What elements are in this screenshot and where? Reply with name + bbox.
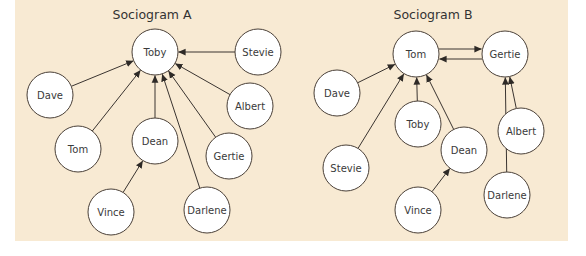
node-darlene: Darlene [484,172,530,218]
edge-tom-to-toby [92,70,140,131]
node-label: Toby [406,119,430,130]
sociogram-canvas: Sociogram ATobyStevieDaveAlbertTomDeanGe… [0,0,586,256]
node-albert: Albert [227,83,273,129]
node-dave: Dave [27,72,73,118]
edge-gertie-to-toby [169,71,216,137]
sociogram-a: Sociogram ATobyStevieDaveAlbertTomDeanGe… [27,7,281,235]
edge-dave-to-tom [358,64,395,82]
node-label: Stevie [330,163,361,174]
node-label: Tom [67,144,88,155]
node-gertie: Gertie [482,31,528,77]
node-albert: Albert [498,108,544,154]
node-label: Dean [142,136,168,147]
edge-vince-to-dean [432,169,450,192]
edge-toby-to-tom [417,78,418,102]
node-toby: Toby [132,29,178,75]
node-darlene: Darlene [184,187,230,233]
edge-vince-to-dean [123,161,143,192]
node-label: Darlene [187,205,226,216]
node-vince: Vince [88,189,134,235]
node-stevie: Stevie [235,29,281,75]
node-label: Vince [404,205,431,216]
edge-albert-to-gertie [510,77,517,109]
node-label: Gertie [214,151,245,162]
sociogram-title: Sociogram B [393,7,472,22]
node-label: Dave [324,88,350,99]
node-dean: Dean [132,118,178,164]
node-label: Gertie [490,49,521,60]
node-label: Albert [235,101,265,112]
node-label: Dean [451,145,477,156]
node-label: Tom [405,49,426,60]
node-dean: Dean [441,127,487,173]
edge-albert-to-toby [175,64,230,95]
node-label: Vince [97,207,124,218]
node-label: Albert [506,126,536,137]
node-label: Darlene [487,190,526,201]
node-tom: Tom [55,126,101,172]
node-label: Toby [143,47,167,58]
node-label: Dave [37,90,63,101]
node-tom: Tom [393,31,439,77]
sociogram-b: Sociogram BTomGertieDaveTobyAlbertStevie… [314,7,544,233]
node-dave: Dave [314,70,360,116]
node-stevie: Stevie [323,145,369,191]
node-gertie: Gertie [206,133,252,179]
sociogram-title: Sociogram A [112,7,191,22]
node-label: Stevie [242,47,273,58]
node-vince: Vince [395,187,441,233]
edge-stevie-to-tom [358,74,404,148]
node-toby: Toby [395,101,441,147]
edge-dave-to-toby [71,61,133,86]
